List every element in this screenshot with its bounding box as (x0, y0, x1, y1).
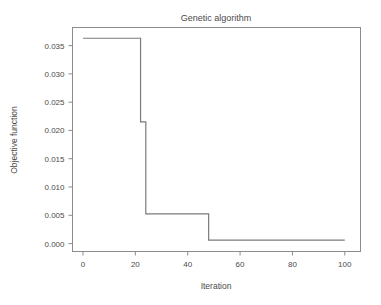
y-tick-label: 0.025 (44, 98, 65, 107)
x-tick-label: 20 (131, 260, 140, 269)
chart-title: Genetic algorithm (181, 13, 252, 23)
chart-canvas: Genetic algorithm 020406080100 0.0000.00… (0, 0, 381, 305)
chart-figure: Genetic algorithm 020406080100 0.0000.00… (0, 0, 381, 305)
x-axis-label: Iteration (201, 281, 232, 291)
y-tick-label: 0.000 (44, 240, 65, 249)
y-tick-label: 0.005 (44, 211, 65, 220)
y-tick-label: 0.015 (44, 155, 65, 164)
y-tick-label: 0.010 (44, 183, 65, 192)
x-tick-label: 0 (81, 260, 86, 269)
x-tick-label: 40 (183, 260, 192, 269)
y-tick-label: 0.020 (44, 126, 65, 135)
x-tick-label: 80 (288, 260, 297, 269)
x-tick-label: 100 (338, 260, 352, 269)
y-axis-label: Objective function (9, 106, 19, 174)
x-tick-label: 60 (236, 260, 245, 269)
y-tick-label: 0.030 (44, 70, 65, 79)
y-tick-label: 0.035 (44, 42, 65, 51)
